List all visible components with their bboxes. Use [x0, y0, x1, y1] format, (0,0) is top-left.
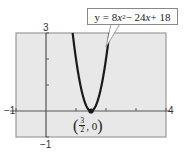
x-min-label: −1 — [4, 106, 15, 116]
fraction-denominator: 2 — [80, 126, 84, 134]
equation-callout: y = 8x2 − 24x + 18 — [87, 8, 178, 25]
vertex-point — [88, 108, 93, 113]
eq-suffix: + 18 — [151, 11, 171, 23]
vertex-label: ( 3 2 , 0 ) — [73, 117, 103, 134]
vertex-x-fraction: 3 2 — [79, 117, 85, 134]
y-max-label: 3 — [43, 23, 49, 33]
y-min-label: −1 — [40, 140, 51, 150]
eq-mid: − 24 — [126, 11, 146, 23]
eq-prefix: y = 8 — [95, 11, 118, 23]
x-max-label: 4 — [168, 106, 174, 116]
